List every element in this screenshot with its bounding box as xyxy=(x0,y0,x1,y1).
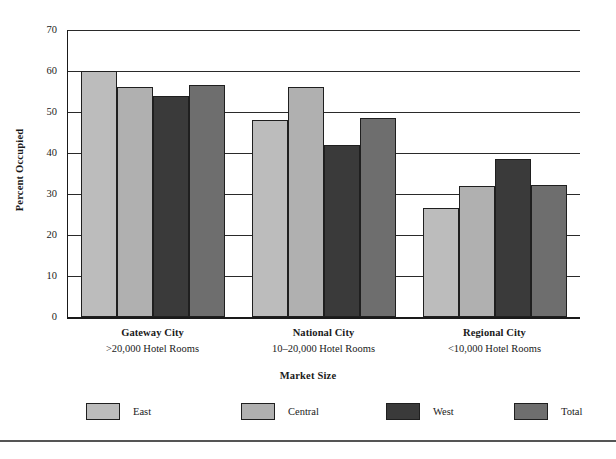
group-name: National City xyxy=(238,325,409,341)
group-name: Regional City xyxy=(409,325,580,341)
group-name: Gateway City xyxy=(67,325,238,341)
legend-label: Central xyxy=(288,406,319,417)
bars-layer xyxy=(67,30,580,317)
bar-central-national-city xyxy=(288,87,324,317)
bar-total-regional-city xyxy=(531,185,567,317)
chart-legend: EastCentralWestTotal xyxy=(86,398,546,426)
legend-swatch-east xyxy=(86,403,120,420)
y-axis-tick-label: 20 xyxy=(31,230,57,241)
legend-swatch-west xyxy=(386,403,420,420)
bar-total-national-city xyxy=(360,118,396,317)
group-sublabel: 10–20,000 Hotel Rooms xyxy=(238,341,409,357)
bar-east-national-city xyxy=(252,120,288,317)
legend-item-central[interactable]: Central xyxy=(241,398,319,424)
legend-swatch-central xyxy=(241,403,275,420)
legend-item-total[interactable]: Total xyxy=(514,398,582,424)
x-axis-group-label: Regional City<10,000 Hotel Rooms xyxy=(409,325,580,358)
x-axis-title: Market Size xyxy=(0,370,616,381)
chart-figure: Percent Occupied 010203040506070 Gateway… xyxy=(0,0,616,459)
legend-swatch-total xyxy=(514,403,548,420)
legend-item-west[interactable]: West xyxy=(386,398,454,424)
legend-label: East xyxy=(133,406,151,417)
x-axis-group-label: Gateway City>20,000 Hotel Rooms xyxy=(67,325,238,358)
y-axis-tick-label: 40 xyxy=(31,148,57,159)
bar-central-gateway-city xyxy=(117,87,153,317)
bar-west-gateway-city xyxy=(153,96,189,317)
legend-label: Total xyxy=(561,406,582,417)
legend-label: West xyxy=(433,406,454,417)
y-axis-tick-label: 50 xyxy=(31,107,57,118)
x-axis-line xyxy=(67,317,580,319)
x-axis-group-label: National City10–20,000 Hotel Rooms xyxy=(238,325,409,358)
y-axis-tick-label: 10 xyxy=(31,271,57,282)
bottom-divider xyxy=(0,440,616,442)
group-sublabel: >20,000 Hotel Rooms xyxy=(67,341,238,357)
group-sublabel: <10,000 Hotel Rooms xyxy=(409,341,580,357)
y-axis-tick-label: 70 xyxy=(31,25,57,36)
y-axis-title: Percent Occupied xyxy=(14,100,25,240)
bar-east-gateway-city xyxy=(81,71,117,317)
bar-central-regional-city xyxy=(459,186,495,317)
y-axis-tick-label: 30 xyxy=(31,189,57,200)
y-axis-tick-label: 0 xyxy=(31,312,57,323)
bar-west-national-city xyxy=(324,145,360,317)
bar-total-gateway-city xyxy=(189,85,225,317)
y-axis-tick-label: 60 xyxy=(31,66,57,77)
bar-east-regional-city xyxy=(423,208,459,317)
bar-west-regional-city xyxy=(495,159,531,317)
legend-item-east[interactable]: East xyxy=(86,398,151,424)
